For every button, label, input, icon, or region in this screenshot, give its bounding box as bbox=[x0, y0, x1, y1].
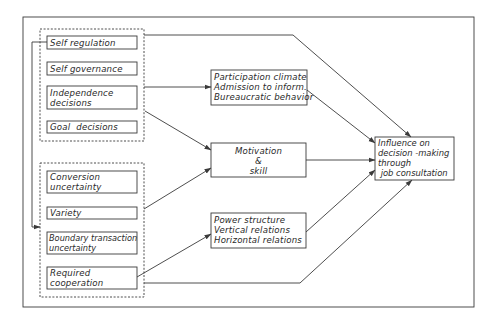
influence-line-4: job consultation bbox=[378, 168, 449, 178]
influence-line-1: Influence on bbox=[378, 138, 449, 148]
motivation-line-1: Motivation bbox=[211, 146, 306, 156]
label-independence-decisions: Independence decisions bbox=[50, 88, 114, 108]
power-line-2: Vertical relations bbox=[214, 225, 302, 235]
influence-line-3: through bbox=[378, 158, 449, 168]
edge-independence-to-motivation bbox=[145, 111, 211, 150]
label-influence: Influence on decision -making through jo… bbox=[378, 138, 449, 178]
label-self-governance: Self governance bbox=[50, 64, 123, 74]
label-self-regulation: Self regulation bbox=[50, 38, 116, 48]
motivation-line-3: skill bbox=[211, 166, 306, 176]
label-boundary-transaction: Boundary transaction uncertainty bbox=[49, 233, 137, 253]
participation-line-3: Bureaucratic behavior bbox=[214, 92, 314, 102]
edge-self-regulation-to-task-group bbox=[32, 42, 47, 227]
label-motivation: Motivation & skill bbox=[211, 146, 306, 176]
edge-variety-to-motivation bbox=[144, 168, 211, 209]
edge-participation-to-influence bbox=[307, 90, 375, 143]
label-goal-decisions: Goal decisions bbox=[50, 122, 118, 132]
power-line-1: Power structure bbox=[214, 215, 302, 225]
motivation-line-2: & bbox=[211, 156, 306, 166]
label-participation: Participation climate Admission to infor… bbox=[214, 72, 314, 102]
influence-line-2: decision -making bbox=[378, 148, 449, 158]
edge-power-to-influence bbox=[306, 170, 375, 232]
label-required-cooperation: Required cooperation bbox=[50, 268, 103, 288]
power-line-3: Horizontal relations bbox=[214, 235, 302, 245]
participation-line-2: Admission to inform. bbox=[214, 82, 314, 92]
participation-line-1: Participation climate bbox=[214, 72, 314, 82]
edge-required-cooperation-to-power bbox=[137, 234, 211, 277]
label-variety: Variety bbox=[50, 208, 82, 218]
label-conversion-uncertainty: Conversion uncertainty bbox=[50, 172, 102, 192]
label-power: Power structure Vertical relations Horiz… bbox=[214, 215, 302, 245]
